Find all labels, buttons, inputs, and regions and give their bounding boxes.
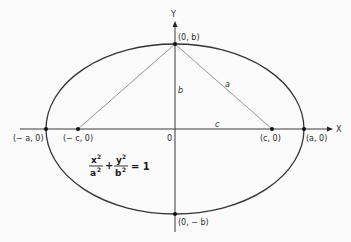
eq-y-exponent: 2	[122, 153, 126, 160]
label-left-focus: (− c, 0)	[63, 134, 93, 143]
label-right-vertex: (a, 0)	[306, 134, 327, 143]
label-semi-minor-b: b	[178, 86, 183, 95]
eq-x-exponent: 2	[97, 153, 101, 160]
ellipse-equation: x 2 a 2 + y 2 b 2 = 1	[89, 153, 150, 178]
label-right-focus: (c, 0)	[260, 134, 281, 143]
point-right-focus	[270, 127, 274, 131]
eq-x-denominator: a	[90, 168, 96, 178]
point-right-vertex	[302, 127, 306, 131]
line-top-to-left-focus	[78, 44, 175, 129]
y-axis-arrow-icon	[173, 21, 178, 27]
point-left-focus	[76, 127, 80, 131]
origin-label: 0	[167, 134, 172, 143]
eq-y-den-exponent: 2	[122, 166, 126, 173]
label-top-vertex: (0, b)	[178, 33, 200, 42]
point-top-vertex	[173, 42, 177, 46]
x-axis-label: X	[336, 125, 342, 134]
x-axis-arrow-icon	[327, 127, 333, 132]
label-focal-distance-c: c	[215, 120, 220, 129]
point-left-vertex	[44, 127, 48, 131]
ellipse-diagram: Y X 0 (− a, 0) (− c, 0) (c, 0) (a, 0) (0…	[0, 0, 351, 242]
eq-plus: +	[105, 160, 113, 171]
y-axis-label: Y	[170, 10, 176, 19]
label-left-vertex: (− a, 0)	[13, 134, 44, 143]
label-bottom-vertex: (0, − b)	[178, 218, 209, 227]
label-hypotenuse-a: a	[225, 80, 230, 89]
point-bottom-vertex	[173, 212, 177, 216]
line-top-to-right-focus	[175, 44, 272, 129]
eq-x-den-exponent: 2	[97, 166, 101, 173]
eq-y-denominator: b	[115, 168, 122, 178]
eq-equals-one: = 1	[131, 161, 150, 172]
